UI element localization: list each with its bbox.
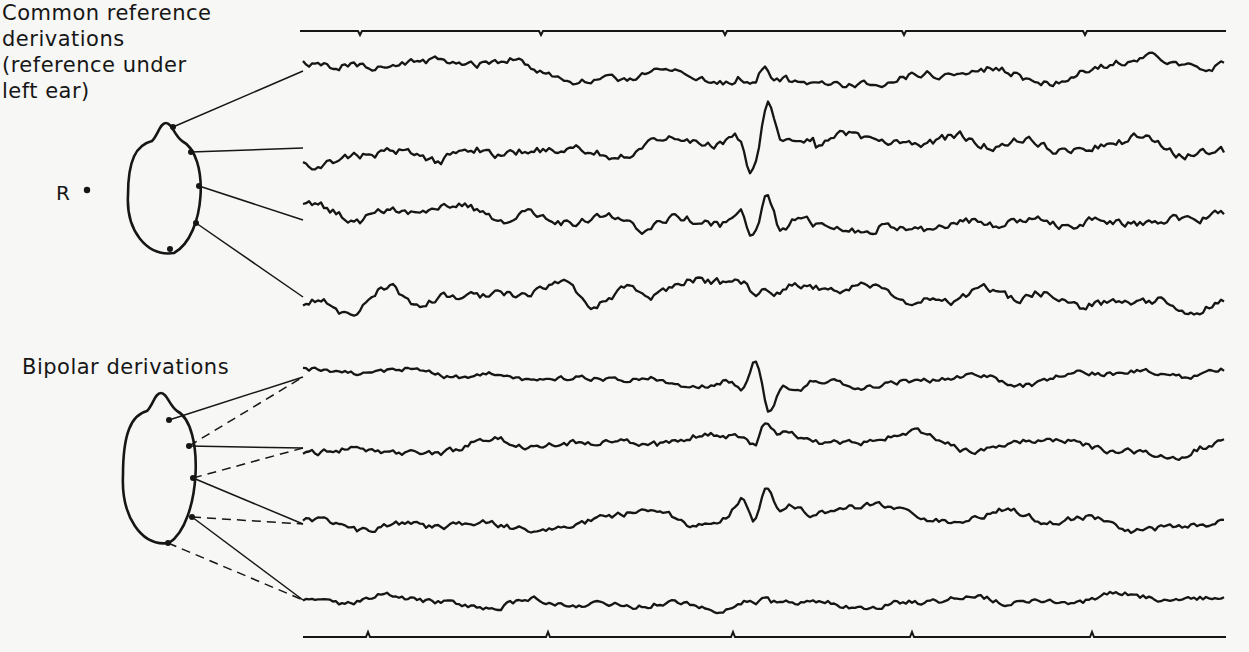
eeg-traces (303, 53, 1224, 614)
bipolar-trace-4 (303, 592, 1224, 613)
dashed-connector (193, 448, 303, 478)
reference-r-label: R (56, 180, 70, 206)
common-reference-head (128, 123, 202, 253)
solid-connector (199, 186, 303, 220)
common-reference-trace-3 (303, 195, 1224, 235)
electrode-dot (167, 246, 173, 252)
electrode-connectors (168, 71, 303, 600)
solid-connector (189, 446, 303, 448)
common-reference-label: Common reference derivations (reference … (2, 0, 212, 104)
head-outline (128, 123, 201, 253)
solid-connector (169, 377, 303, 420)
solid-connector (196, 223, 303, 297)
solid-connector (192, 517, 303, 600)
dashed-connector (168, 543, 303, 600)
solid-connector (191, 148, 303, 152)
common-reference-trace-1 (303, 53, 1224, 88)
bipolar-derivations-label: Bipolar derivations (22, 354, 229, 380)
common-reference-trace-2 (303, 102, 1224, 174)
top-time-marker (300, 31, 1226, 35)
dashed-connector (189, 377, 303, 446)
dashed-connector (192, 517, 303, 524)
bottom-time-marker (303, 632, 1226, 637)
bipolar-trace-1 (303, 362, 1224, 412)
common-reference-trace-4 (303, 278, 1224, 316)
solid-connector (193, 478, 303, 524)
reference-electrode-dot (84, 187, 90, 193)
head-diagrams (123, 123, 202, 546)
bipolar-head (123, 393, 196, 546)
bipolar-trace-3 (303, 489, 1224, 533)
bipolar-trace-2 (303, 423, 1224, 459)
